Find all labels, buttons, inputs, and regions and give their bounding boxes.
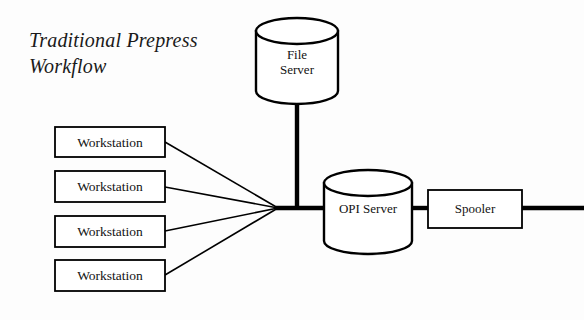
workstation-boxes [55, 127, 165, 291]
file-server-top [256, 18, 338, 44]
workstation-node-1[interactable] [55, 127, 165, 157]
opi-server-top [324, 170, 412, 196]
workstation-link-4 [165, 208, 278, 275]
spooler-node[interactable] [428, 190, 522, 228]
workstation-node-4[interactable] [55, 260, 165, 291]
workstation-node-3[interactable] [55, 216, 165, 247]
diagram-canvas: Traditional Prepress Workflow File Serve… [0, 0, 584, 320]
workstation-links [165, 142, 278, 275]
file-server-node[interactable] [256, 18, 338, 104]
opi-server-node[interactable] [324, 170, 412, 254]
workstation-node-2[interactable] [55, 171, 165, 202]
diagram-title: Traditional Prepress Workflow [29, 27, 259, 79]
workstation-link-3 [165, 208, 278, 231]
